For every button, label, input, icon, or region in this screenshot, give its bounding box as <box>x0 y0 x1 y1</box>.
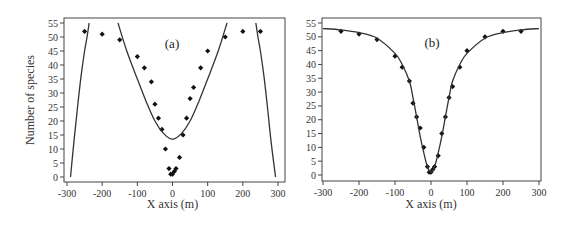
y-axis-title: Number of species <box>23 55 37 145</box>
x-tick-label: 100 <box>460 187 475 198</box>
y-tick-label: 10 <box>306 142 316 153</box>
x-tick-label: 200 <box>235 188 250 199</box>
y-tick-label: 25 <box>306 100 316 111</box>
x-tick-label: 200 <box>496 187 511 198</box>
fit-curve <box>71 23 90 177</box>
y-tick-label: 0 <box>53 172 58 183</box>
x-axis-title: X axis (m) <box>147 197 198 211</box>
data-point-marker <box>198 65 203 70</box>
x-tick-label: -100 <box>128 188 146 199</box>
fit-curve <box>323 29 539 173</box>
y-tick-label: 15 <box>48 130 58 141</box>
y-tick-label: 5 <box>311 156 316 167</box>
data-point-marker <box>163 146 168 151</box>
y-tick-label: 0 <box>311 170 316 181</box>
data-point-marker <box>100 32 105 37</box>
data-point-marker <box>152 102 157 107</box>
y-tick-label: 55 <box>306 18 316 29</box>
y-tick-label: 15 <box>306 128 316 139</box>
x-tick-label: 100 <box>200 188 215 199</box>
data-point-marker <box>117 37 122 42</box>
data-point-marker <box>205 48 210 53</box>
chart-panel-b: 0510152025303540455055-300-200-100010020… <box>306 18 547 212</box>
data-point-marker <box>156 116 161 121</box>
data-point-marker <box>166 166 171 171</box>
y-tick-label: 35 <box>306 73 316 84</box>
data-point-marker <box>149 79 154 84</box>
chart-panel-a: 0510152025303540455055-300-200-100010020… <box>23 18 286 212</box>
y-tick-label: 55 <box>48 18 58 29</box>
y-axis: 0510152025303540455055 <box>306 18 322 181</box>
x-axis-title: X axis (m) <box>405 197 456 211</box>
x-tick-label: 300 <box>271 188 286 199</box>
x-tick-label: -200 <box>93 188 111 199</box>
data-point-marker <box>191 85 196 90</box>
data-point-marker <box>184 116 189 121</box>
data-point-marker <box>240 29 245 34</box>
data-point-marker <box>177 155 182 160</box>
y-tick-label: 40 <box>306 59 316 70</box>
data-point-marker <box>187 96 192 101</box>
panel-label: (a) <box>165 36 179 51</box>
y-tick-label: 20 <box>48 116 58 127</box>
x-tick-label: -100 <box>386 187 404 198</box>
y-tick-label: 35 <box>48 74 58 85</box>
y-tick-label: 10 <box>48 144 58 155</box>
y-tick-label: 40 <box>48 60 58 71</box>
y-tick-label: 45 <box>306 45 316 56</box>
y-tick-label: 25 <box>48 102 58 113</box>
x-tick-label: -300 <box>58 188 76 199</box>
y-tick-label: 45 <box>48 46 58 57</box>
y-tick-label: 30 <box>48 88 58 99</box>
data-point-marker <box>258 29 263 34</box>
x-tick-label: -200 <box>350 187 368 198</box>
data-point-marker <box>135 54 140 59</box>
panel-label: (b) <box>424 35 439 50</box>
y-tick-label: 50 <box>306 31 316 42</box>
y-axis: 0510152025303540455055 <box>48 18 64 183</box>
x-tick-label: 300 <box>532 187 547 198</box>
data-point-marker <box>142 65 147 70</box>
y-tick-label: 50 <box>48 32 58 43</box>
x-tick-label: -300 <box>314 187 332 198</box>
chart-figure: 0510152025303540455055-300-200-100010020… <box>0 0 571 225</box>
y-tick-label: 5 <box>53 158 58 169</box>
data-point-marker <box>82 29 87 34</box>
y-tick-label: 20 <box>306 114 316 125</box>
x-axis: -300-200-1000100200300 <box>314 181 547 198</box>
y-tick-label: 30 <box>306 87 316 98</box>
fit-curve <box>256 23 276 177</box>
